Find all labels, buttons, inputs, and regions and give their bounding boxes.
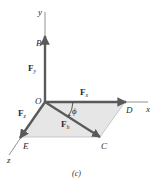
figure-caption: (c) — [72, 169, 81, 178]
point-c-label: C — [101, 141, 108, 151]
origin-label: O — [35, 96, 42, 106]
phi-label: ϕ — [72, 106, 77, 116]
x-axis-label: x — [145, 104, 150, 114]
point-b-label: B — [36, 38, 42, 48]
fz-label: Fz — [18, 108, 27, 119]
fx-label: Fx — [80, 87, 89, 98]
fy-label: Fy — [28, 63, 37, 74]
y-axis-label: y — [37, 7, 42, 17]
point-e-label: E — [22, 141, 29, 151]
point-d-label: D — [125, 105, 133, 115]
force-components-diagram: y B Fy O Fx D x Fz ϕ Fh E C z (c) — [0, 0, 160, 182]
z-axis-label: z — [6, 155, 11, 165]
